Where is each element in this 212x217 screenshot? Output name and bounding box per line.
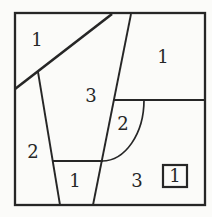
- partitioned-square-diagram: 1 1 3 2 2 1 3 1: [0, 0, 212, 217]
- region-label-center: 3: [85, 85, 96, 106]
- diagonal-line: [15, 14, 112, 89]
- region-label-arc: 2: [117, 113, 128, 134]
- region-label-left: 2: [27, 141, 38, 162]
- region-label-top-left: 1: [31, 29, 42, 50]
- region-label-bottom-right: 3: [131, 170, 142, 191]
- left-slanted-divider: [38, 72, 60, 205]
- region-label-bottom-center: 1: [69, 170, 80, 191]
- diagram-canvas: 1 1 3 2 2 1 3 1: [0, 0, 212, 217]
- region-label-top-right: 1: [157, 46, 168, 67]
- right-slanted-divider: [93, 14, 131, 205]
- region-label-inner-square: 1: [169, 165, 180, 186]
